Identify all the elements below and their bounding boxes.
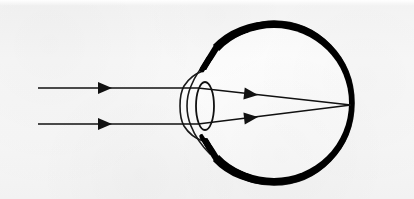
anterior-chamber: [195, 70, 235, 140]
eye-diagram-canvas: [0, 0, 414, 199]
eye-diagram-figure: [0, 0, 414, 199]
